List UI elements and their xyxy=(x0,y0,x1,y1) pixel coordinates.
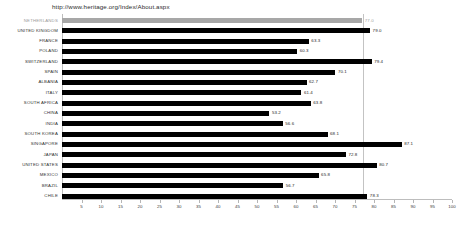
bar-value-label: 65.8 xyxy=(321,170,330,180)
x-axis-tick-label: 95 xyxy=(430,204,435,209)
x-axis-tick-label: 15 xyxy=(118,204,123,209)
x-axis-tick xyxy=(374,200,375,203)
bar-chart: NETHERLANDS77.0UNITED KINGDOM79.0FRANCE6… xyxy=(0,14,466,228)
bar xyxy=(62,163,377,168)
screenshot-root: http://www.heritage.org/Index/About.aspx… xyxy=(0,0,466,228)
bar-value-label: 87.1 xyxy=(404,139,413,149)
x-axis-tick-label: 5 xyxy=(80,204,82,209)
bar-value-label: 63.3 xyxy=(311,36,320,46)
bar xyxy=(62,142,402,147)
x-axis-tick xyxy=(199,200,200,203)
x-axis-tick xyxy=(355,200,356,203)
bar-row-label: UNITED KINGDOM xyxy=(0,26,58,36)
x-axis-tick xyxy=(82,200,83,203)
bar xyxy=(62,80,307,85)
x-axis-tick xyxy=(433,200,434,203)
x-axis-tick xyxy=(257,200,258,203)
bar-row-label: SINGAPORE xyxy=(0,139,58,149)
bar xyxy=(62,90,301,95)
x-axis-tick-label: 70 xyxy=(333,204,338,209)
x-axis-tick-label: 75 xyxy=(352,204,357,209)
x-axis-tick-label: 80 xyxy=(372,204,377,209)
bar xyxy=(62,28,370,33)
bar-row: SPAIN70.1 xyxy=(0,67,466,77)
bar-value-label: 68.1 xyxy=(330,129,339,139)
bar xyxy=(62,18,362,23)
bar-row-label: SPAIN xyxy=(0,67,58,77)
bar-row-label: CHINA xyxy=(0,108,58,118)
bar-row-label: FRANCE xyxy=(0,36,58,46)
x-axis-tick-label: 85 xyxy=(391,204,396,209)
bar xyxy=(62,183,283,188)
bar-row: UNITED STATES80.7 xyxy=(0,160,466,170)
x-axis-tick xyxy=(394,200,395,203)
bar xyxy=(62,39,309,44)
x-axis-tick xyxy=(413,200,414,203)
bar xyxy=(62,152,346,157)
bar-value-label: 61.4 xyxy=(304,88,313,98)
bar xyxy=(62,49,297,54)
x-axis-tick-label: 100 xyxy=(448,204,455,209)
bar-value-label: 77.0 xyxy=(365,16,374,26)
bar-value-label: 56.6 xyxy=(285,119,294,129)
x-axis-tick-label: 30 xyxy=(177,204,182,209)
bar-value-label: 63.8 xyxy=(313,98,322,108)
x-axis-tick xyxy=(316,200,317,203)
x-axis-tick-label: 35 xyxy=(196,204,201,209)
bar-row: SOUTH KOREA68.1 xyxy=(0,129,466,139)
bar-row: SOUTH AFRICA63.8 xyxy=(0,98,466,108)
bar-row: ITALY61.4 xyxy=(0,88,466,98)
bar-value-label: 79.4 xyxy=(374,57,383,67)
x-axis-tick xyxy=(238,200,239,203)
bar-value-label: 72.8 xyxy=(348,150,357,160)
bar-row-label: SWITZERLAND xyxy=(0,57,58,67)
bar-row: FRANCE63.3 xyxy=(0,36,466,46)
bar-row-label: NETHERLANDS xyxy=(0,16,58,26)
bar-row-label: CHILE xyxy=(0,191,58,201)
bar-value-label: 60.3 xyxy=(300,46,309,56)
bar-row-label: ITALY xyxy=(0,88,58,98)
bar-row: POLAND60.3 xyxy=(0,46,466,56)
x-axis-tick-label: 50 xyxy=(255,204,260,209)
x-axis-tick-label: 90 xyxy=(411,204,416,209)
source-url-caption: http://www.heritage.org/Index/About.aspx xyxy=(52,3,170,10)
bar-row: ALBANIA62.7 xyxy=(0,77,466,87)
bar-row-label: SOUTH AFRICA xyxy=(0,98,58,108)
bar xyxy=(62,173,319,178)
x-axis-tick xyxy=(452,200,453,203)
x-axis-tick xyxy=(335,200,336,203)
x-axis-tick-label: 65 xyxy=(313,204,318,209)
bar-row: BRAZIL56.7 xyxy=(0,181,466,191)
x-axis-tick-label: 10 xyxy=(99,204,104,209)
x-axis-tick-label: 60 xyxy=(294,204,299,209)
bar-row-label: INDIA xyxy=(0,119,58,129)
bar-value-label: 53.2 xyxy=(272,108,281,118)
bar xyxy=(62,59,372,64)
x-axis-tick-label: 20 xyxy=(138,204,143,209)
x-axis-tick xyxy=(121,200,122,203)
x-axis-tick xyxy=(101,200,102,203)
bar xyxy=(62,132,328,137)
bar-row: UNITED KINGDOM79.0 xyxy=(0,26,466,36)
bar-row: MEXICO65.8 xyxy=(0,170,466,180)
bar-row-label: SOUTH KOREA xyxy=(0,129,58,139)
bar-value-label: 80.7 xyxy=(379,160,388,170)
x-axis-tick xyxy=(140,200,141,203)
bar-row: NETHERLANDS77.0 xyxy=(0,16,466,26)
x-axis-tick-label: 55 xyxy=(274,204,279,209)
x-axis-tick xyxy=(160,200,161,203)
bar xyxy=(62,194,367,199)
bar xyxy=(62,111,269,116)
bar-row-label: ALBANIA xyxy=(0,77,58,87)
bar-row: INDIA56.6 xyxy=(0,119,466,129)
bar-row-label: BRAZIL xyxy=(0,181,58,191)
bar-value-label: 70.1 xyxy=(338,67,347,77)
bar-value-label: 79.0 xyxy=(373,26,382,36)
bar xyxy=(62,121,283,126)
x-axis-tick xyxy=(277,200,278,203)
x-axis-tick-label: 40 xyxy=(216,204,221,209)
bar xyxy=(62,70,335,75)
x-axis-tick xyxy=(218,200,219,203)
x-axis-tick xyxy=(179,200,180,203)
bar-row: JAPAN72.8 xyxy=(0,150,466,160)
